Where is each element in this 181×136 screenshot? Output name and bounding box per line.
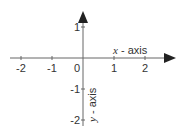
x-axis-arrow-icon	[164, 53, 176, 63]
x-axis-title: x - axis	[112, 44, 148, 56]
y-tick-label: -1	[70, 83, 80, 95]
x-tick-label: -2	[16, 62, 26, 74]
coordinate-axes-diagram: -2 -1 0 1 2 1 -1 -2 x - axis y - axis	[0, 0, 181, 136]
x-tick-label: 0	[74, 62, 80, 74]
x-tick-label: 1	[111, 62, 117, 74]
x-tick-label: 2	[142, 62, 148, 74]
y-axis-title: y - axis	[86, 87, 98, 123]
y-tick-label: -2	[70, 114, 80, 126]
y-tick-label: 1	[74, 21, 80, 33]
x-tick-label: -1	[47, 62, 57, 74]
